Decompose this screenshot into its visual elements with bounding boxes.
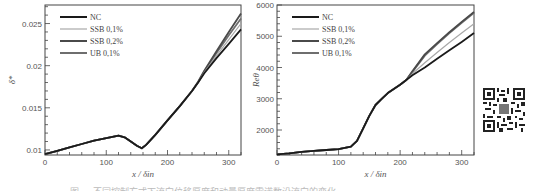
series-line: [45, 13, 241, 154]
figure-caption: 图 ... 不同控制方式下流向位移厚度和动量厚度雷诺数沿流向的变化: [70, 184, 380, 191]
y-tick-label: 0.02: [26, 62, 42, 71]
x-axis-label: x / δin: [363, 169, 387, 179]
y-tick-label: 6000: [256, 1, 274, 10]
chart-momentum-reynolds: 010020030020003000400050006000x / δinReθ…: [252, 0, 482, 180]
x-tick-label: 300: [222, 158, 236, 167]
x-tick-label: 0: [43, 158, 48, 167]
series-line: [277, 33, 474, 154]
plot-frame: [45, 5, 241, 155]
y-tick-label: 0.01: [26, 146, 42, 155]
legend-label: UB 0,1%: [322, 49, 352, 58]
x-tick-label: 0: [275, 158, 280, 167]
qr-code-icon: [483, 88, 525, 132]
plot-frame: [277, 5, 474, 155]
series-line: [277, 24, 474, 155]
series-line: [45, 19, 241, 155]
y-tick-label: 4000: [256, 64, 274, 73]
series-line: [277, 13, 474, 155]
x-tick-label: 100: [332, 158, 346, 167]
series-line: [45, 29, 241, 154]
legend-label: NC: [90, 13, 101, 22]
y-tick-label: 3000: [256, 95, 274, 104]
qr-code-image: [483, 88, 525, 132]
series-line: [45, 24, 241, 155]
y-tick-label: 0.015: [22, 104, 43, 113]
legend-label: UB 0,1%: [90, 49, 120, 58]
y-axis-label: δ*: [7, 75, 17, 84]
legend-label: NC: [322, 13, 333, 22]
x-tick-label: 100: [100, 158, 114, 167]
legend-label: SSB 0,1%: [322, 25, 355, 34]
chart-left-svg: 01002003000.010.0150.020.025x / δinδ*NCS…: [0, 0, 260, 180]
series-line: [277, 12, 474, 155]
x-axis-label: x / δin: [131, 169, 155, 179]
x-tick-label: 300: [455, 158, 469, 167]
x-tick-label: 200: [161, 158, 175, 167]
chart-right-svg: 010020030020003000400050006000x / δinReθ…: [252, 0, 482, 180]
y-axis-label: Reθ: [252, 72, 261, 87]
legend-label: SSB 0,1%: [90, 25, 123, 34]
y-tick-label: 0.025: [22, 20, 43, 29]
legend-label: SSB 0,2%: [322, 37, 355, 46]
x-tick-label: 200: [393, 158, 407, 167]
legend-label: SSB 0,2%: [90, 37, 123, 46]
y-tick-label: 5000: [256, 32, 274, 41]
chart-displacement-thickness: 01002003000.010.0150.020.025x / δinδ*NCS…: [0, 0, 260, 180]
y-tick-label: 2000: [256, 126, 274, 135]
